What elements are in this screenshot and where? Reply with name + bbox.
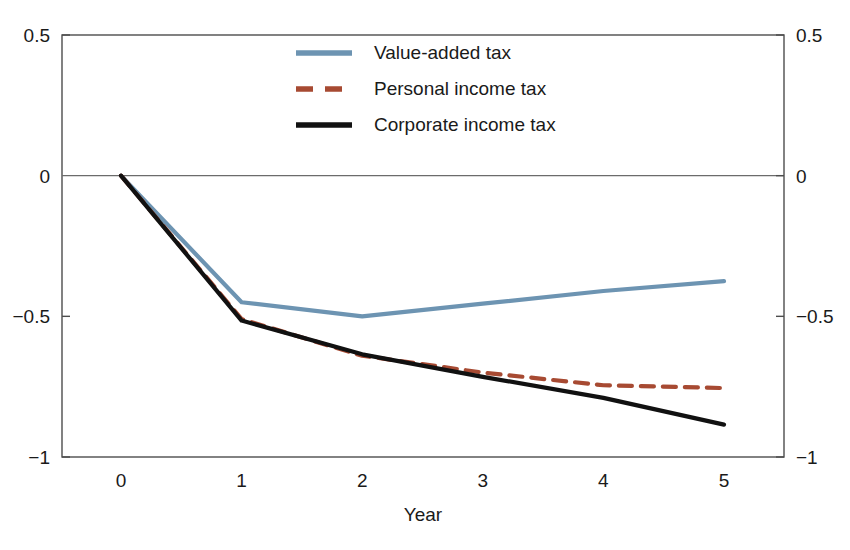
legend-label-0: Value-added tax xyxy=(374,42,511,63)
y-axis-left-label: 0.5 xyxy=(24,25,50,46)
chart-canvas: 0.50−0.5−1 0.50−0.5−1 012345 Year Value-… xyxy=(0,0,850,550)
x-axis-label: 3 xyxy=(478,470,489,491)
x-axis-label: 5 xyxy=(719,470,730,491)
y-axis-right-label: 0.5 xyxy=(796,25,822,46)
legend-label-1: Personal income tax xyxy=(374,78,547,99)
y-axis-right-label: −0.5 xyxy=(796,306,834,327)
legend-label-2: Corporate income tax xyxy=(374,114,556,135)
y-axis-left-label: 0 xyxy=(39,166,50,187)
y-axis-left-label: −0.5 xyxy=(12,306,50,327)
x-axis-label: 1 xyxy=(236,470,247,491)
y-axis-right-label: 0 xyxy=(796,166,807,187)
x-axis-label: 0 xyxy=(116,470,127,491)
y-axis-right-label: −1 xyxy=(796,447,818,468)
x-axis-label: 4 xyxy=(598,470,609,491)
x-axis-label: 2 xyxy=(357,470,368,491)
x-axis-title: Year xyxy=(404,504,443,525)
y-axis-left-label: −1 xyxy=(28,447,50,468)
line-chart-figure: 0.50−0.5−1 0.50−0.5−1 012345 Year Value-… xyxy=(0,0,850,550)
